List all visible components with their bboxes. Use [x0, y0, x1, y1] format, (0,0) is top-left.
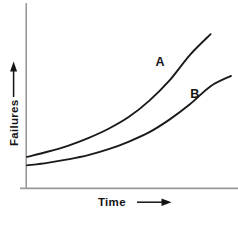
failures-vs-time-chart: A B Failures Time — [0, 0, 238, 225]
series-label-b: B — [190, 87, 199, 101]
y-axis-title: Failures — [8, 99, 20, 146]
x-axis-title: Time — [98, 196, 126, 208]
curve-series-b — [27, 76, 231, 165]
x-axis-right-arrow-icon — [137, 199, 172, 206]
chart-canvas: A B Failures Time — [0, 0, 238, 225]
series-label-a: A — [156, 55, 165, 69]
y-axis-up-arrow-icon — [10, 62, 17, 98]
curve-series-a — [27, 34, 211, 157]
